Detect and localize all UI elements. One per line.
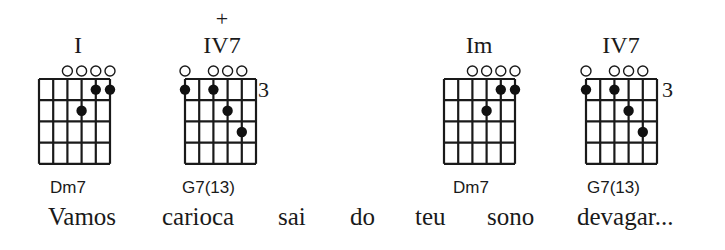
finger-dot-icon [609, 84, 619, 94]
finger-dot-icon [180, 84, 190, 94]
degree-label-2: IV7 [203, 33, 240, 57]
open-string-icon [496, 66, 506, 76]
chord-name-1: Dm7 [50, 178, 86, 198]
finger-dot-icon [208, 84, 218, 94]
finger-dot-icon [581, 84, 591, 94]
finger-dot-icon [481, 106, 491, 116]
finger-dot-icon [510, 84, 520, 94]
lyric-word: sai [278, 203, 306, 231]
lyric-word: devagar... [577, 203, 673, 231]
open-string-icon [208, 66, 218, 76]
open-string-icon [77, 66, 87, 76]
fret-position-label-4: 3 [662, 79, 673, 101]
lyric-word: carioca [162, 203, 234, 231]
open-string-icon [91, 66, 101, 76]
open-string-icon [467, 66, 477, 76]
chord-name-3: Dm7 [453, 178, 489, 198]
lyric-word: sono [487, 203, 534, 231]
lyric-word: do [350, 203, 375, 231]
lyric-word: teu [415, 203, 446, 231]
finger-dot-icon [237, 127, 247, 137]
finger-dot-icon [91, 84, 101, 94]
open-string-icon [62, 66, 72, 76]
degree-label-3: Im [466, 33, 493, 57]
open-string-icon [638, 66, 648, 76]
finger-dot-icon [623, 106, 633, 116]
chord-diagram-3 [444, 64, 516, 164]
open-string-icon [609, 66, 619, 76]
finger-dot-icon [638, 127, 648, 137]
open-string-icon [482, 66, 492, 76]
open-string-icon [105, 66, 115, 76]
finger-dot-icon [76, 106, 86, 116]
open-string-icon [624, 66, 634, 76]
finger-dot-icon [496, 84, 506, 94]
open-string-icon [223, 66, 233, 76]
chord-diagram-2 [185, 64, 257, 164]
fret-position-label-2: 3 [258, 79, 269, 101]
degree-label-1: I [74, 33, 82, 57]
open-string-icon [510, 66, 520, 76]
sharp-accidental-mark: + [216, 8, 228, 30]
chord-diagram-1 [39, 64, 111, 164]
finger-dot-icon [105, 84, 115, 94]
chord-diagram-4 [586, 64, 658, 164]
open-string-icon [237, 66, 247, 76]
chord-name-4: G7(13) [587, 178, 640, 198]
degree-label-4: IV7 [602, 33, 639, 57]
chord-name-2: G7(13) [182, 178, 235, 198]
open-string-icon [581, 66, 591, 76]
lyric-word: Vamos [48, 203, 116, 231]
finger-dot-icon [222, 106, 232, 116]
open-string-icon [180, 66, 190, 76]
